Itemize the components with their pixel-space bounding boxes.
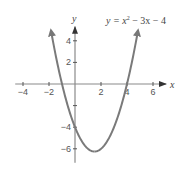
y-tick-label: 2: [66, 57, 71, 67]
parabola-curve: [51, 30, 138, 151]
y-tick-label: 4: [66, 36, 71, 46]
x-tick-label: −2: [44, 87, 54, 97]
axes: [15, 27, 166, 163]
y-tick-label: −4: [61, 122, 71, 132]
tick-marks: −4−224642−4−6: [18, 36, 156, 154]
x-tick-label: −4: [18, 87, 28, 97]
x-axis-label: x: [169, 79, 175, 90]
x-tick-label: 6: [150, 87, 155, 97]
y-axis-label: y: [71, 13, 77, 24]
equation-label: y = x2 − 3x − 4: [105, 15, 166, 26]
parabola-graph: −4−224642−4−6 x y y = x2 − 3x − 4: [0, 0, 188, 169]
y-tick-label: −6: [61, 144, 71, 154]
x-tick-label: 2: [98, 87, 103, 97]
